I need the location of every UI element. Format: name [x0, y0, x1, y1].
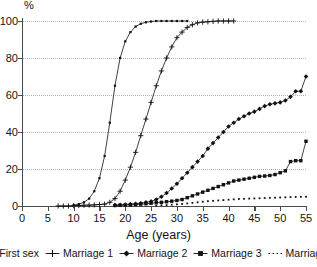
data-point: [304, 140, 307, 143]
data-point: [207, 200, 209, 202]
data-point: [299, 159, 302, 162]
data-point: [160, 201, 163, 204]
data-point: [139, 202, 142, 205]
x-tick-label: 45: [248, 213, 260, 224]
x-tick-label: 25: [145, 213, 157, 224]
data-point: [227, 181, 230, 184]
data-point: [247, 111, 252, 116]
data-point: [300, 196, 302, 198]
data-point: [93, 190, 95, 192]
legend-label: Marriage 2: [137, 248, 187, 259]
data-point: [253, 176, 256, 179]
square-marker-icon: [193, 248, 208, 259]
data-point: [201, 190, 204, 193]
diamond-marker-icon: [119, 248, 134, 259]
data-point: [135, 25, 137, 27]
legend-item-first-sex[interactable]: First sex: [0, 248, 39, 259]
x-tick-label: 0: [19, 213, 25, 224]
data-point: [129, 203, 132, 206]
data-point: [205, 19, 210, 24]
data-point: [66, 203, 71, 208]
data-point: [133, 150, 138, 155]
legend-label: First sex: [0, 248, 39, 259]
data-point: [274, 197, 276, 199]
plus-marker-icon: [45, 248, 60, 259]
series-plot: [22, 21, 306, 206]
data-point: [109, 122, 111, 124]
chart-figure: % 020406080100 0510152025303540455055 Ag…: [0, 0, 317, 267]
data-point: [212, 200, 214, 202]
data-point: [118, 189, 123, 194]
data-point: [299, 89, 304, 94]
data-point: [217, 200, 219, 202]
data-point: [284, 169, 287, 172]
x-tick-label: 15: [93, 213, 105, 224]
x-axis-title: Age (years): [0, 228, 317, 242]
data-point: [150, 20, 152, 22]
legend-label: Marriage 1: [63, 248, 113, 259]
data-point: [305, 196, 307, 198]
chart-legend: First sexMarriage 1Marriage 2Marriage 3M…: [0, 248, 317, 259]
data-point: [191, 194, 194, 197]
data-point: [123, 178, 128, 183]
series-marriage-2: [113, 74, 309, 207]
data-point: [264, 197, 266, 199]
legend-item-marriage-2[interactable]: Marriage 2: [119, 248, 187, 259]
data-point: [165, 20, 167, 22]
data-point: [180, 198, 183, 201]
data-point: [134, 203, 137, 206]
legend-label: Marriage 3: [211, 248, 261, 259]
data-point: [196, 192, 199, 195]
data-point: [113, 204, 116, 207]
data-point: [98, 177, 100, 179]
data-point: [222, 199, 224, 201]
y-tick-label: 0: [12, 201, 18, 212]
data-point: [192, 202, 194, 204]
data-point: [290, 196, 292, 198]
data-point: [295, 196, 297, 198]
data-point: [165, 200, 168, 203]
data-point: [140, 23, 142, 25]
data-point: [273, 101, 278, 106]
data-point: [253, 198, 255, 200]
data-point: [202, 201, 204, 203]
y-tick-label: 20: [6, 164, 18, 175]
data-point: [263, 174, 266, 177]
data-point: [252, 109, 257, 114]
data-point: [154, 83, 159, 88]
data-point: [186, 203, 188, 205]
legend-item-marriage-3[interactable]: Marriage 3: [193, 248, 261, 259]
data-point: [206, 189, 209, 192]
legend-item-marriage-4[interactable]: Marriage 4: [268, 248, 317, 259]
data-point: [176, 203, 178, 205]
data-point: [278, 100, 283, 105]
data-point: [118, 204, 121, 207]
legend-item-marriage-1[interactable]: Marriage 1: [45, 248, 113, 259]
data-point: [221, 18, 226, 23]
data-point: [186, 196, 189, 199]
x-tick-mark: [203, 206, 204, 211]
data-point: [258, 175, 261, 178]
plot-area: 020406080100 0510152025303540455055: [22, 21, 306, 206]
x-tick-label: 50: [274, 213, 286, 224]
data-point: [159, 68, 164, 73]
data-point: [248, 177, 251, 180]
x-tick-label: 40: [222, 213, 234, 224]
legend-label: Marriage 4: [286, 248, 317, 259]
data-point: [181, 203, 183, 205]
data-point: [273, 173, 276, 176]
series-marriage-1: [56, 18, 237, 208]
data-point: [170, 199, 173, 202]
x-tick-mark: [229, 206, 230, 211]
data-point: [149, 202, 152, 205]
x-tick-label: 20: [119, 213, 131, 224]
data-point: [228, 199, 230, 201]
data-point: [176, 20, 178, 22]
x-tick-mark: [151, 206, 152, 211]
data-point: [226, 18, 231, 23]
data-point: [160, 20, 162, 22]
data-point: [284, 196, 286, 198]
data-point: [112, 196, 117, 201]
x-tick-mark: [48, 206, 49, 211]
data-point: [124, 40, 126, 42]
